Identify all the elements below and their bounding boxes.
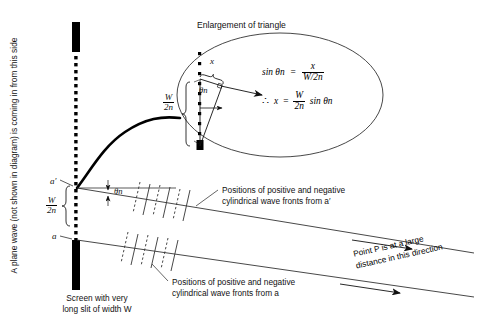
leader-a-prime [60,180,73,186]
caption-line-1: Positions of positive and negative [172,277,295,287]
caption-wavefronts-from-a-prime: Positions of positive and negative cylin… [222,185,345,207]
side-note-plane-wave: A plane wave (not shown in diagram) is c… [9,6,20,306]
leader-a [60,236,72,239]
frac-denominator-2n: 2n [46,206,57,215]
eq1-numerator: x [302,62,324,73]
label-W-over-2n-main: W 2n [46,196,57,215]
caption-line-2: cylindrical wave fronts from a′ [222,196,331,206]
eq2-denominator: 2n [293,102,304,112]
label-a-prime: a′ [50,176,56,188]
eq2-lhs: x [274,96,278,106]
slit-source-points [74,56,77,241]
label-a: a [52,231,57,243]
equation-sin-theta: sin θn = x W/2n [262,62,332,82]
brace-x [200,71,225,84]
figure-canvas: A plane wave (not shown in diagram) is c… [0,0,478,327]
label-theta-n-enlarged: θn [199,85,208,96]
caption-wavefronts-from-a: Positions of positive and negative cylin… [172,277,295,299]
eq1-lhs: sin θn [262,67,285,77]
caption-line-2: cylindrical wave fronts from a [172,288,279,298]
enlargement-title: Enlargement of triangle [197,20,286,31]
caption-line-2: long slit of width W [62,304,131,314]
leader-caption-top [196,190,218,206]
equation-block: sin θn = x W/2n ∴ x = W 2n sin θn [262,62,332,120]
equation-x-equals: ∴ x = W 2n sin θn [262,91,332,111]
caption-screen: Screen with very long slit of width W [37,293,157,315]
eq2-equals: = [283,96,288,106]
brace-W-2n-main [62,186,70,226]
eq1-denominator: W/2n [302,73,324,83]
enlarged-triangle-group [182,52,262,150]
label-x: x [210,56,214,68]
eq2-tail: sin θn [310,96,333,106]
eq1-equals: = [291,67,296,77]
caption-line-1: Positions of positive and negative [222,185,345,195]
enlarged-ray-arrow [221,86,262,95]
brace-W-2n-enlarged [182,82,190,146]
label-theta-n-main: θn [114,186,123,197]
leader-caption-bottom [152,264,168,281]
callout-leader-curve [77,117,180,188]
caption-line-1: Screen with very [66,293,127,303]
frac-denominator-2n: 2n [163,103,174,112]
therefore-symbol: ∴ [262,95,269,108]
label-W-over-2n-enlarged: W 2n [163,93,174,112]
